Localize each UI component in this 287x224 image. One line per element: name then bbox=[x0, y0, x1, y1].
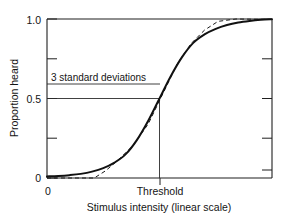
figure-container: 1.0 0.5 0 0 Threshold Stimulus intensity… bbox=[0, 0, 287, 224]
y-tick-label-0: 0 bbox=[35, 172, 41, 184]
x-tick-label-zero: 0 bbox=[45, 185, 51, 197]
x-tick-label-threshold: Threshold bbox=[137, 185, 184, 197]
standard-deviations-annotation: 3 standard deviations bbox=[51, 72, 146, 83]
y-axis-title: Proportion heard bbox=[8, 59, 20, 137]
y-tick-label-0p5: 0.5 bbox=[26, 93, 41, 105]
psychometric-function-chart: 1.0 0.5 0 0 Threshold Stimulus intensity… bbox=[0, 0, 287, 224]
y-tick-label-1p0: 1.0 bbox=[26, 14, 41, 26]
x-axis-title: Stimulus intensity (linear scale) bbox=[87, 201, 232, 213]
right-axis-ticks bbox=[262, 59, 272, 170]
